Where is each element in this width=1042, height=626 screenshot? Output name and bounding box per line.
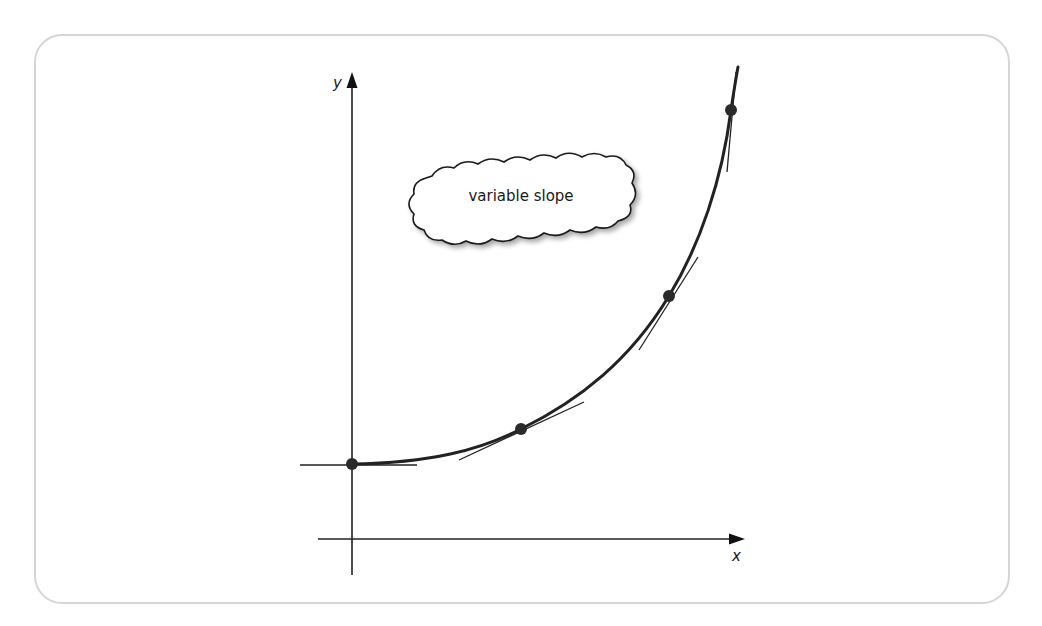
y-axis-arrow-icon	[347, 72, 358, 88]
y-axis-label: y	[332, 74, 343, 92]
x-axis-arrow-icon	[729, 534, 745, 545]
cloud-label: variable slope	[468, 187, 573, 205]
point-3	[663, 290, 675, 302]
point-1	[346, 458, 358, 470]
exponential-curve	[352, 67, 738, 464]
x-axis-label: x	[731, 547, 741, 565]
point-4	[725, 104, 737, 116]
diagram-canvas: y x variable slope	[0, 0, 1042, 626]
point-2	[515, 423, 527, 435]
x-axis	[318, 534, 745, 545]
tangent-lines	[300, 72, 736, 465]
y-axis	[347, 72, 358, 575]
tangent-line-3	[639, 257, 698, 350]
